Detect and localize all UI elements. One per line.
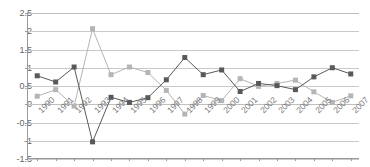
x-tick-mark <box>37 158 38 161</box>
data-point-marker <box>182 55 187 60</box>
y-tick-mark <box>25 159 28 160</box>
x-tick-mark <box>93 158 94 161</box>
x-tick-mark <box>222 158 223 161</box>
data-point-marker <box>72 65 77 70</box>
x-tick-mark <box>314 158 315 161</box>
data-point-marker <box>127 65 132 70</box>
x-tick-mark <box>240 158 241 161</box>
data-point-marker <box>330 65 335 70</box>
data-point-marker <box>219 67 224 72</box>
data-point-marker <box>348 93 353 98</box>
data-point-marker <box>90 26 95 31</box>
x-tick-mark <box>203 158 204 161</box>
series-layer <box>28 13 360 159</box>
data-point-marker <box>201 93 206 98</box>
data-point-marker <box>238 76 243 81</box>
x-tick-mark <box>129 158 130 161</box>
x-tick-mark <box>148 158 149 161</box>
data-point-marker <box>311 74 316 79</box>
x-tick-mark <box>259 158 260 161</box>
x-tick-mark <box>166 158 167 161</box>
data-point-marker <box>238 89 243 94</box>
x-tick-mark <box>295 158 296 161</box>
x-tick-mark <box>185 158 186 161</box>
data-point-marker <box>311 89 316 94</box>
x-tick-mark <box>332 158 333 161</box>
data-point-marker <box>275 83 280 88</box>
data-point-marker <box>90 139 95 144</box>
data-point-marker <box>293 78 298 83</box>
data-point-marker <box>109 72 114 77</box>
chart-title-remnant: · · · · · · · · · · · · · · · · · · · · … <box>0 0 366 5</box>
data-point-marker <box>256 81 261 86</box>
data-point-marker <box>182 112 187 117</box>
data-point-marker <box>35 94 40 99</box>
data-point-marker <box>53 79 58 84</box>
gridline <box>28 159 359 160</box>
x-tick-mark <box>74 158 75 161</box>
data-point-marker <box>348 71 353 76</box>
plot-area: 1990199119921993199419951996199719981999… <box>27 13 359 159</box>
data-point-marker <box>201 72 206 77</box>
x-tick-mark <box>277 158 278 161</box>
data-point-marker <box>164 77 169 82</box>
data-point-marker <box>145 70 150 75</box>
data-point-marker <box>164 88 169 93</box>
x-tick-mark <box>351 158 352 161</box>
x-tick-mark <box>111 158 112 161</box>
data-point-marker <box>35 73 40 78</box>
data-point-marker <box>53 87 58 92</box>
x-tick-mark <box>56 158 57 161</box>
data-point-marker <box>293 87 298 92</box>
